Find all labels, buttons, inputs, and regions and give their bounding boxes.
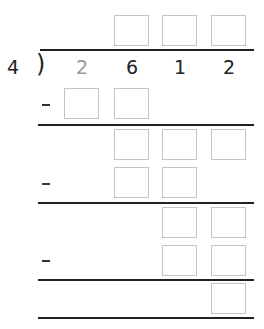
minus-sign-1	[42, 104, 50, 106]
step1-subtract-box-2[interactable]	[114, 88, 149, 119]
step2-line	[38, 202, 254, 204]
division-bar	[40, 49, 254, 51]
divisor: 4	[7, 56, 19, 78]
dividend-digit-3: 1	[162, 56, 198, 78]
dividend-digit-4: 2	[211, 56, 247, 78]
step2-subtract-box-2[interactable]	[162, 167, 197, 198]
step1-remainder-box-2[interactable]	[162, 129, 197, 160]
quotient-box-1[interactable]	[114, 15, 149, 46]
dividend-digit-1: 2	[64, 56, 100, 78]
step1-remainder-box-1[interactable]	[114, 129, 149, 160]
step3-subtract-box-2[interactable]	[211, 245, 246, 276]
quotient-box-3[interactable]	[211, 15, 246, 46]
step3-line	[38, 279, 254, 281]
step2-remainder-box-2[interactable]	[211, 207, 246, 238]
final-remainder-box[interactable]	[211, 283, 246, 314]
dividend-digit-2: 6	[114, 56, 150, 78]
step1-line	[38, 124, 254, 126]
step3-subtract-box-1[interactable]	[162, 245, 197, 276]
minus-sign-2	[42, 183, 50, 185]
division-bracket: )	[36, 50, 45, 78]
minus-sign-3	[42, 260, 50, 262]
quotient-box-2[interactable]	[162, 15, 197, 46]
final-line	[38, 317, 254, 319]
step2-remainder-box-1[interactable]	[162, 207, 197, 238]
step2-subtract-box-1[interactable]	[114, 167, 149, 198]
step1-remainder-box-3[interactable]	[211, 129, 246, 160]
step1-subtract-box-1[interactable]	[64, 88, 99, 119]
